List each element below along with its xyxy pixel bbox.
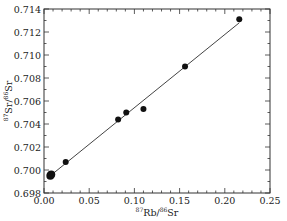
y-tick-label: 0.704 — [14, 119, 41, 130]
data-point — [123, 110, 129, 116]
y-tick-label: 0.698 — [14, 188, 41, 199]
y-tick-label: 0.702 — [14, 142, 41, 153]
x-tick-label: 0.25 — [259, 195, 280, 206]
y-tick-label: 0.700 — [14, 165, 41, 176]
y-axis-label: 87Sr/86Sr — [2, 80, 14, 121]
y-label-sup1: 87 — [2, 113, 9, 121]
y-tick-label: 0.708 — [14, 73, 41, 84]
y-label-base1: Sr/ — [3, 99, 14, 114]
isochron-fit-line — [50, 23, 239, 176]
axis-ticks — [44, 9, 270, 193]
y-tick-label: 0.714 — [14, 4, 41, 15]
data-point — [63, 159, 69, 165]
y-tick-label: 0.710 — [14, 50, 41, 61]
x-label-sup1: 87 — [136, 206, 144, 213]
data-point — [236, 16, 242, 22]
y-label-sup2: 86 — [2, 92, 9, 100]
y-label-base2: Sr — [3, 80, 14, 92]
data-point — [182, 64, 188, 70]
data-point — [140, 106, 146, 112]
y-tick-label: 0.706 — [14, 96, 41, 107]
x-label-sup2: 86 — [160, 206, 168, 213]
x-label-base1: Rb/ — [143, 207, 160, 218]
x-tick-label: 0.10 — [124, 195, 145, 206]
isochron-chart: 0.000.050.100.150.200.25 0.6980.7000.702… — [0, 0, 287, 221]
x-axis-label: 87Rb/86Sr — [136, 206, 179, 218]
x-tick-labels: 0.000.050.100.150.200.25 — [33, 195, 280, 206]
x-tick-label: 0.15 — [169, 195, 190, 206]
data-point — [115, 116, 121, 122]
plot-frame — [44, 9, 270, 193]
x-tick-label: 0.20 — [214, 195, 235, 206]
data-point — [47, 171, 55, 179]
y-tick-labels: 0.6980.7000.7020.7040.7060.7080.7100.712… — [14, 4, 41, 199]
x-label-base2: Sr — [167, 207, 179, 218]
y-tick-label: 0.712 — [14, 27, 41, 38]
x-tick-label: 0.05 — [79, 195, 100, 206]
